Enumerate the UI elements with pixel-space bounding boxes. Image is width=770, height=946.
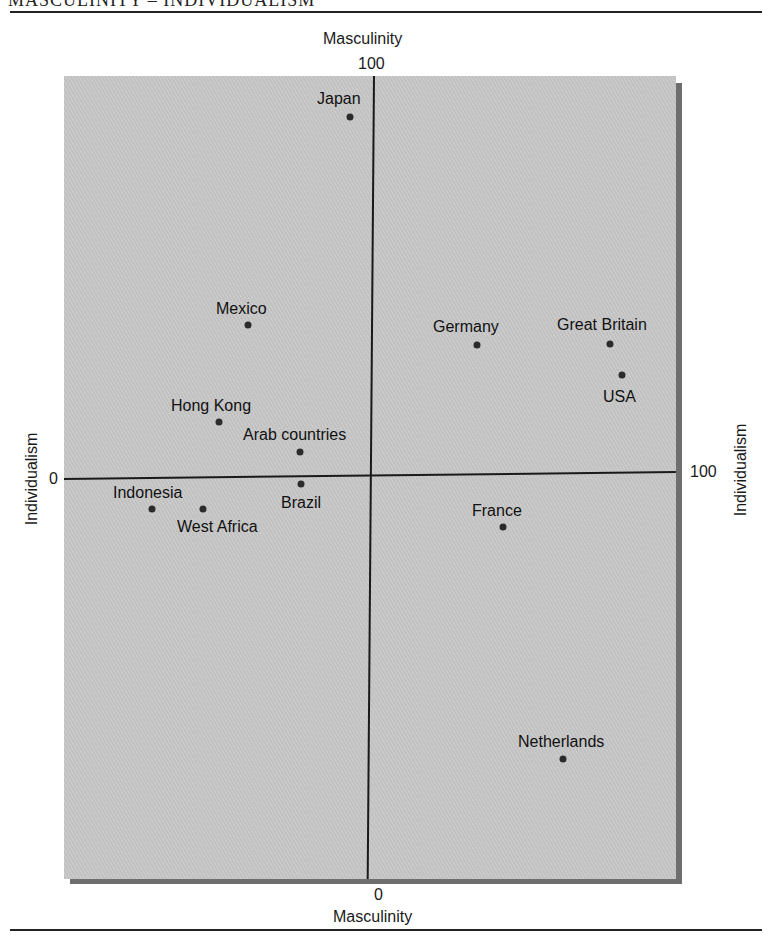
label-arab-countries: Arab countries: [243, 426, 346, 444]
point-mexico: [245, 322, 252, 329]
point-brazil: [298, 481, 305, 488]
right-tick-label: 100: [690, 463, 717, 481]
point-arab-countries: [297, 449, 304, 456]
label-netherlands: Netherlands: [518, 733, 604, 751]
bottom-rule: [10, 929, 762, 931]
top-rule: [10, 11, 762, 13]
label-hong-kong: Hong Kong: [171, 397, 251, 415]
bottom-tick-label: 0: [374, 886, 383, 904]
plot-area: [64, 76, 676, 879]
point-indonesia: [149, 506, 156, 513]
label-japan: Japan: [317, 90, 361, 108]
label-great-britain: Great Britain: [557, 316, 647, 334]
label-germany: Germany: [433, 318, 499, 336]
bottom-axis-title: Masculinity: [333, 908, 412, 926]
point-france: [500, 524, 507, 531]
point-japan: [347, 114, 354, 121]
left-tick-label: 0: [49, 470, 58, 488]
point-hong-kong: [216, 419, 223, 426]
label-france: France: [472, 502, 522, 520]
top-tick-label: 100: [358, 55, 385, 73]
left-axis-title: Individualism: [23, 433, 41, 525]
label-mexico: Mexico: [216, 300, 267, 318]
label-brazil: Brazil: [281, 494, 321, 512]
label-indonesia: Indonesia: [113, 484, 182, 502]
point-great-britain: [607, 341, 614, 348]
top-axis-title: Masculinity: [323, 30, 402, 48]
page-header: MASCULINITY – INDIVIDUALISM: [8, 0, 315, 11]
point-usa: [619, 372, 626, 379]
label-west-africa: West Africa: [177, 518, 258, 536]
point-west-africa: [200, 506, 207, 513]
right-axis-title: Individualism: [732, 424, 750, 516]
point-germany: [474, 342, 481, 349]
label-usa: USA: [603, 388, 636, 406]
point-netherlands: [560, 756, 567, 763]
masculinity-axis-line: [367, 76, 375, 879]
